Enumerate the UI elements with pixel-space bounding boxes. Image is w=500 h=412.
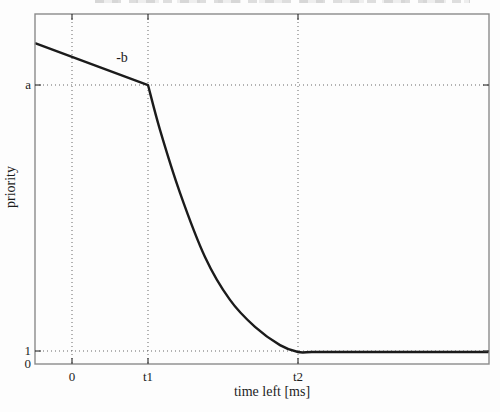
tick-marks: [35, 14, 489, 364]
curve-path: [35, 43, 489, 352]
priority-curve: [35, 43, 489, 352]
gridlines: [35, 14, 489, 364]
plot-canvas: [0, 0, 500, 412]
axes-box: [35, 14, 489, 364]
scanned-figure-page: priority time left [ms] 0t1t2a10-b: [0, 0, 500, 412]
plot-frame: [35, 14, 489, 364]
